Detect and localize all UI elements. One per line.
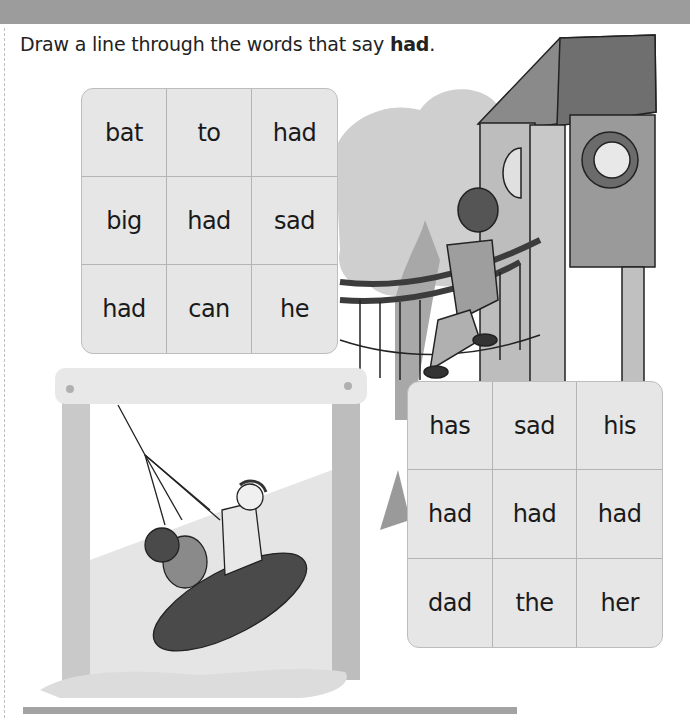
word-cell[interactable]: had xyxy=(167,177,252,265)
swing-frame-icon xyxy=(40,368,367,698)
word-cell[interactable]: big xyxy=(82,177,167,265)
word-cell[interactable]: sad xyxy=(493,382,578,470)
word-cell[interactable]: had xyxy=(577,470,662,558)
word-cell[interactable]: her xyxy=(577,559,662,647)
word-cell[interactable]: the xyxy=(493,559,578,647)
word-cell[interactable]: he xyxy=(252,265,337,353)
word-cell[interactable]: had xyxy=(493,470,578,558)
word-grid-1: bat to had big had sad had can he xyxy=(81,88,338,354)
word-cell[interactable]: had xyxy=(408,470,493,558)
word-cell[interactable]: to xyxy=(167,89,252,177)
word-grid-2: has sad his had had had dad the her xyxy=(407,381,663,648)
word-cell[interactable]: can xyxy=(167,265,252,353)
word-cell[interactable]: his xyxy=(577,382,662,470)
word-cell[interactable]: has xyxy=(408,382,493,470)
tower-icon xyxy=(478,35,656,390)
word-cell[interactable]: bat xyxy=(82,89,167,177)
bottom-rule xyxy=(23,707,517,714)
word-cell[interactable]: sad xyxy=(252,177,337,265)
word-cell[interactable]: had xyxy=(252,89,337,177)
word-cell[interactable]: had xyxy=(82,265,167,353)
word-cell[interactable]: dad xyxy=(408,559,493,647)
